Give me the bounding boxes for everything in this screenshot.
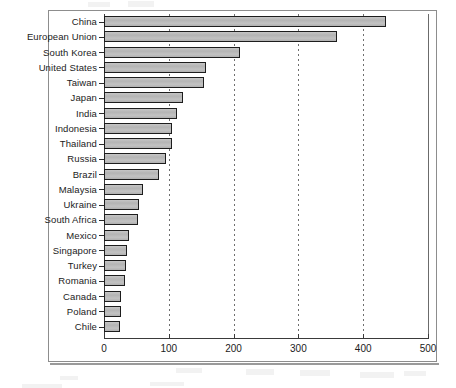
category-label: China xyxy=(72,17,97,27)
category-label: South Korea xyxy=(43,48,97,58)
horizontal-bar-chart: ChinaEuropean UnionSouth KoreaUnited Sta… xyxy=(0,0,456,388)
category-tick xyxy=(99,159,104,160)
category-tick xyxy=(99,22,104,23)
category-tick xyxy=(99,189,104,190)
category-label: Malaysia xyxy=(59,185,97,195)
category-tick xyxy=(99,113,104,114)
category-tick xyxy=(99,250,104,251)
category-label: Japan xyxy=(71,93,97,103)
category-tick xyxy=(99,266,104,267)
category-label: India xyxy=(76,109,97,119)
category-tick xyxy=(99,83,104,84)
scan-artifact xyxy=(246,369,274,375)
category-tick xyxy=(99,296,104,297)
category-tick xyxy=(99,235,104,236)
category-label: United States xyxy=(39,63,97,73)
category-label: European Union xyxy=(27,32,97,42)
scan-artifact xyxy=(300,370,330,376)
scan-artifact xyxy=(88,2,110,7)
value-axis-tick-label: 0 xyxy=(101,343,107,354)
bar xyxy=(104,306,121,317)
category-label: Poland xyxy=(67,307,97,317)
scan-artifact xyxy=(404,371,426,376)
bar xyxy=(104,291,121,302)
category-label: Brazil xyxy=(73,170,97,180)
value-axis-tick-label: 400 xyxy=(355,343,372,354)
category-label: Romania xyxy=(58,276,97,286)
bar xyxy=(104,138,172,149)
gridline-200 xyxy=(234,14,235,338)
category-tick xyxy=(99,52,104,53)
bar xyxy=(104,31,337,42)
bar xyxy=(104,275,125,286)
bar xyxy=(104,321,120,332)
value-axis-tick xyxy=(234,334,235,339)
category-tick xyxy=(99,37,104,38)
category-label: Indonesia xyxy=(55,124,97,134)
value-axis-tick xyxy=(104,334,105,339)
scan-artifact xyxy=(60,376,78,380)
bar xyxy=(104,199,139,210)
category-label: South Africa xyxy=(45,215,97,225)
bar xyxy=(104,260,126,271)
category-tick xyxy=(99,67,104,68)
category-tick xyxy=(99,98,104,99)
plot-right-border xyxy=(428,14,429,339)
category-tick xyxy=(99,311,104,312)
bar xyxy=(104,169,159,180)
value-axis-tick-label: 100 xyxy=(160,343,177,354)
category-label: Thailand xyxy=(60,139,97,149)
category-tick xyxy=(99,174,104,175)
gridline-400 xyxy=(363,14,364,338)
category-label: Mexico xyxy=(66,231,97,241)
bar xyxy=(104,47,240,58)
category-tick xyxy=(99,281,104,282)
value-axis-tick xyxy=(298,334,299,339)
category-label: Turkey xyxy=(68,261,97,271)
bar xyxy=(104,123,172,134)
bar xyxy=(104,77,204,88)
category-label: Canada xyxy=(63,292,97,302)
category-tick xyxy=(99,144,104,145)
gridline-300 xyxy=(298,14,299,338)
value-axis-tick xyxy=(363,334,364,339)
scan-artifact xyxy=(22,384,62,388)
category-tick xyxy=(99,220,104,221)
category-label: Chile xyxy=(75,322,97,332)
category-label: Russia xyxy=(67,154,97,164)
bar xyxy=(104,245,127,256)
category-tick xyxy=(99,128,104,129)
value-axis-tick-label: 200 xyxy=(225,343,242,354)
category-tick xyxy=(99,205,104,206)
value-axis-line xyxy=(104,338,428,339)
value-axis-tick-label: 500 xyxy=(420,343,437,354)
bar xyxy=(104,108,177,119)
bar xyxy=(104,16,386,27)
category-label: Ukraine xyxy=(64,200,97,210)
category-label: Taiwan xyxy=(67,78,97,88)
category-label: Singapore xyxy=(53,246,97,256)
scan-artifact xyxy=(150,382,184,386)
bar xyxy=(104,184,143,195)
scan-artifact xyxy=(360,372,394,378)
bar xyxy=(104,230,129,241)
bar xyxy=(104,92,183,103)
bar xyxy=(104,153,166,164)
scan-artifact xyxy=(128,1,154,7)
value-axis-tick xyxy=(169,334,170,339)
value-axis-tick xyxy=(428,334,429,339)
value-axis-tick-label: 300 xyxy=(290,343,307,354)
bar xyxy=(104,62,206,73)
bar xyxy=(104,214,138,225)
category-tick xyxy=(99,327,104,328)
scan-artifact xyxy=(176,368,202,373)
